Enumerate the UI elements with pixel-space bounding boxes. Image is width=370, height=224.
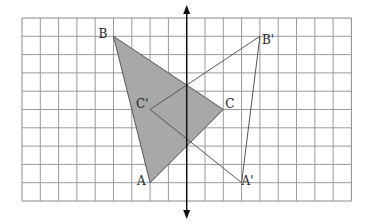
point-label-a: A [136,174,146,188]
point-label-b: B [99,27,108,41]
point-label-c-prime: C' [136,97,148,111]
arrow-down-icon [183,210,190,219]
point-label-c: C [225,97,234,111]
point-label-b-prime: B' [262,33,274,47]
reflection-diagram: A B C A' B' C' [0,0,370,224]
arrow-up-icon [183,5,190,14]
point-label-a-prime: A' [241,174,254,188]
